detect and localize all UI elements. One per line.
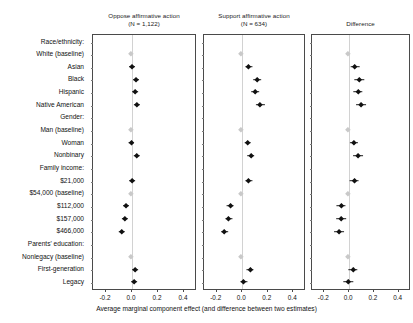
- row-tick: [202, 169, 204, 170]
- row-label: First-generation: [38, 266, 88, 273]
- estimate-marker: [251, 90, 259, 95]
- estimate-marker: [240, 280, 247, 285]
- baseline-marker: [239, 191, 243, 196]
- estimate-marker: [351, 65, 360, 70]
- plot-panel-1: [92, 34, 196, 291]
- row-label: White (baseline): [36, 51, 88, 58]
- baseline-marker: [239, 254, 243, 259]
- point-estimate-dot: [238, 254, 244, 260]
- estimate-marker: [133, 153, 140, 158]
- row-label: Black: [68, 76, 88, 83]
- row-tick: [202, 68, 204, 69]
- estimate-marker: [132, 267, 138, 272]
- estimate-marker: [356, 102, 366, 107]
- row-tick: [91, 43, 93, 44]
- point-estimate-dot: [356, 77, 362, 83]
- row-tick: [202, 118, 204, 119]
- point-estimate-dot: [345, 191, 351, 197]
- estimate-marker: [244, 140, 251, 145]
- x-axis-tick: [131, 290, 132, 292]
- x-axis-tick: [267, 290, 268, 292]
- x-axis-tick: [348, 290, 349, 292]
- point-estimate-dot: [134, 102, 140, 108]
- baseline-marker: [129, 191, 133, 196]
- row-label: $157,000: [56, 215, 88, 222]
- x-axis-tick: [373, 290, 374, 292]
- x-axis-tick-label: 0.0: [127, 295, 136, 301]
- row-tick: [202, 131, 204, 132]
- estimate-marker: [350, 178, 359, 183]
- baseline-marker: [239, 128, 243, 133]
- row-tick: [310, 194, 312, 195]
- point-estimate-dot: [247, 266, 253, 272]
- point-estimate-dot: [129, 64, 135, 70]
- estimate-marker: [336, 216, 346, 221]
- row-tick: [91, 106, 93, 107]
- x-axis-tick-label: -0.2: [99, 295, 110, 301]
- point-estimate-dot: [226, 216, 232, 222]
- x-axis-title: Average marginal component effect (and d…: [0, 305, 413, 312]
- row-tick: [202, 144, 204, 145]
- row-label: Woman: [61, 139, 88, 146]
- baseline-marker: [239, 52, 243, 57]
- point-estimate-dot: [222, 229, 228, 235]
- point-estimate-dot: [248, 153, 254, 159]
- row-tick: [202, 156, 204, 157]
- baseline-marker: [346, 52, 350, 57]
- point-estimate-dot: [238, 51, 244, 57]
- row-label: Native American: [36, 101, 88, 108]
- x-axis-tick-label: 0.4: [393, 295, 402, 301]
- row-tick: [310, 182, 312, 183]
- estimate-marker: [227, 204, 234, 209]
- point-estimate-dot: [128, 51, 134, 57]
- zero-reference-line: [242, 35, 243, 290]
- row-tick: [91, 232, 93, 233]
- row-label: Man (baseline): [40, 127, 88, 134]
- point-estimate-dot: [228, 203, 234, 209]
- row-tick: [91, 93, 93, 94]
- point-estimate-dot: [252, 89, 258, 95]
- baseline-marker: [129, 254, 133, 259]
- estimate-marker: [343, 280, 352, 285]
- point-estimate-dot: [132, 279, 138, 285]
- row-tick: [202, 93, 204, 94]
- row-label: Nonlegacy (baseline): [22, 253, 88, 260]
- row-tick: [91, 270, 93, 271]
- row-tick: [91, 156, 93, 157]
- row-tick: [310, 106, 312, 107]
- panel-title-line1: Support affirmative action: [189, 12, 319, 20]
- row-tick: [202, 43, 204, 44]
- point-estimate-dot: [351, 178, 357, 184]
- row-tick: [310, 43, 312, 44]
- x-axis-tick-label: -0.2: [318, 295, 329, 301]
- estimate-marker: [256, 102, 264, 107]
- point-estimate-dot: [352, 64, 358, 70]
- estimate-marker: [348, 267, 357, 272]
- estimate-marker: [129, 65, 135, 70]
- point-estimate-dot: [355, 153, 361, 159]
- row-tick: [202, 245, 204, 246]
- estimate-marker: [355, 77, 364, 82]
- x-axis-tick: [216, 290, 217, 292]
- row-label: $112,000: [57, 203, 88, 210]
- row-tick: [91, 220, 93, 221]
- row-label-column: Race/ethnicity:White (baseline)AsianBlac…: [0, 0, 88, 323]
- point-estimate-dot: [345, 254, 351, 260]
- row-tick: [202, 258, 204, 259]
- estimate-marker: [123, 204, 129, 209]
- row-tick: [202, 182, 204, 183]
- row-tick: [310, 283, 312, 284]
- estimate-marker: [119, 229, 126, 234]
- point-estimate-dot: [245, 140, 251, 146]
- row-label: Race/ethnicity:: [41, 38, 88, 45]
- estimate-marker: [133, 77, 139, 82]
- point-estimate-dot: [132, 266, 138, 272]
- estimate-marker: [225, 216, 232, 221]
- point-estimate-dot: [258, 102, 264, 108]
- row-label: $21,000: [60, 177, 88, 184]
- estimate-marker: [129, 140, 134, 145]
- x-axis-tick-label: 0.4: [288, 295, 297, 301]
- row-label: Family income:: [40, 165, 88, 172]
- baseline-marker: [129, 52, 133, 57]
- point-estimate-dot: [128, 254, 134, 260]
